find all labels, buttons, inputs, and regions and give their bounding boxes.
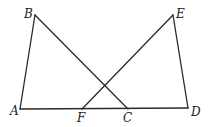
segment-ab: [20, 15, 35, 109]
labels-group: A B C D E F: [9, 7, 201, 125]
segments-group: [20, 15, 188, 109]
segment-bc: [35, 15, 128, 109]
geometry-diagram: A B C D E F: [0, 0, 212, 127]
point-label-f: F: [76, 111, 86, 125]
point-label-c: C: [123, 111, 132, 125]
point-label-a: A: [9, 104, 19, 118]
segment-fe: [82, 15, 173, 109]
segment-ed: [173, 15, 188, 108]
point-label-d: D: [190, 105, 201, 119]
point-label-b: B: [23, 7, 33, 21]
segment-ad: [20, 108, 188, 109]
point-label-e: E: [175, 7, 185, 21]
